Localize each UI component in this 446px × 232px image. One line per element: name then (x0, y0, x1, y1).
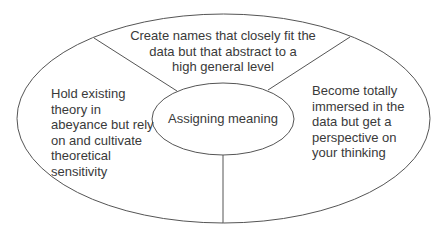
segment-right-line: immersed in the (312, 99, 404, 115)
center-label: Assigning meaning (153, 111, 293, 127)
segment-left-line: on and cultivate (51, 133, 154, 149)
segment-right-line: Become totally (312, 83, 404, 99)
segment-right-text: Become totally immersed in the data but … (312, 83, 404, 161)
segment-left-line: sensitivity (51, 164, 154, 180)
segment-right-line: your thinking (312, 145, 404, 161)
segment-right-line: perspective on (312, 130, 404, 146)
segment-top-line: high general level (123, 59, 323, 75)
segment-left-line: Hold existing (51, 86, 154, 102)
segment-left-text: Hold existing theory in abeyance but rel… (51, 86, 154, 180)
segment-left-line: theory in (51, 102, 154, 118)
segment-top-line: data but that abstract to a (123, 44, 323, 60)
segment-right-line: data but get a (312, 114, 404, 130)
segment-left-line: abeyance but rely (51, 117, 154, 133)
segment-top-text: Create names that closely fit the data b… (123, 28, 323, 75)
segment-top-line: Create names that closely fit the (123, 28, 323, 44)
segment-left-line: theoretical (51, 148, 154, 164)
